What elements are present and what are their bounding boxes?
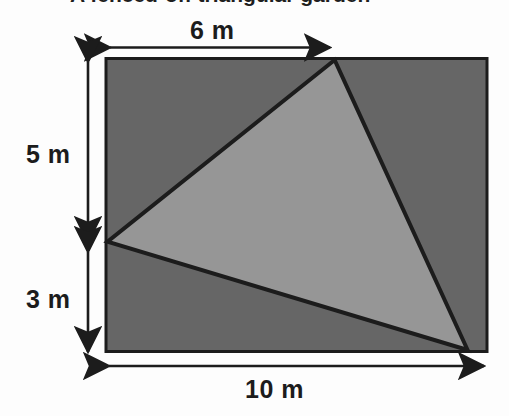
dimension-label-top-width: 6 m [190,18,235,43]
geometry-figure: A fenced-off triangular garden 6 m 5 m 3… [0,0,509,416]
dimension-label-bottom-width: 10 m [245,377,304,402]
dimension-label-left-lower: 3 m [26,287,71,312]
figure-caption: A fenced-off triangular garden [70,0,450,7]
dimension-label-left-upper: 5 m [26,142,71,167]
figure-canvas [0,0,509,416]
